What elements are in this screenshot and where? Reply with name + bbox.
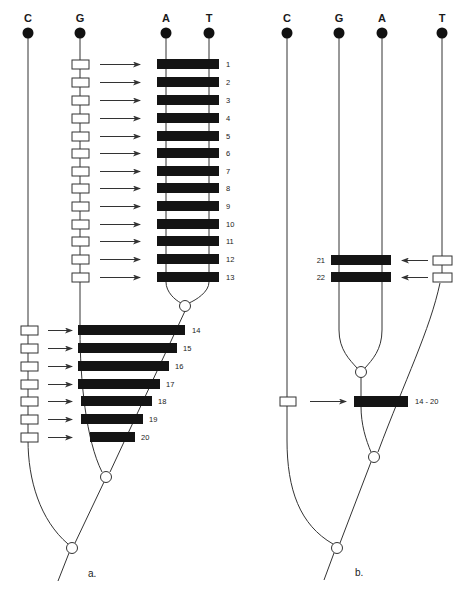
panel-a: C G A T: [21, 12, 234, 581]
panel-label-b: b.: [355, 567, 363, 578]
black-bar: [78, 379, 160, 389]
bar-row: 9: [72, 201, 230, 211]
bar-row: 6: [72, 148, 230, 158]
bar-number: 3: [226, 96, 230, 105]
bar-number: 2: [226, 78, 230, 87]
black-bar: [78, 343, 177, 353]
bar-number: 14 - 20: [415, 397, 438, 406]
bar-number: 13: [226, 273, 234, 282]
bar-number: 17: [166, 380, 174, 389]
black-bar: [331, 272, 391, 282]
event-box-icon: [72, 202, 89, 211]
bar-row: 12: [72, 254, 234, 264]
black-bar: [81, 396, 152, 406]
event-box-icon: [21, 397, 38, 406]
black-bar: [157, 272, 219, 282]
bar-row: 22: [317, 272, 452, 282]
base-label-t: T: [206, 12, 213, 24]
event-box-icon: [72, 220, 89, 229]
event-box-icon: [72, 132, 89, 141]
bar-row: 1: [72, 59, 230, 69]
bar-number: 18: [158, 397, 166, 406]
black-bar: [157, 59, 219, 69]
bar-row: 2: [72, 77, 230, 87]
base-label-g: G: [76, 12, 85, 24]
black-bar: [157, 77, 219, 87]
event-box-icon: [433, 256, 452, 265]
base-label-a: A: [162, 12, 170, 24]
event-box-icon: [21, 380, 38, 389]
event-box-icon: [72, 184, 89, 193]
root-node-icon: [75, 28, 86, 39]
bar-number: 16: [175, 362, 183, 371]
root-node-icon: [334, 28, 345, 39]
bar-row: 5: [72, 131, 230, 141]
bar-number: 4: [226, 114, 230, 123]
root-node-icon: [204, 28, 215, 39]
upper-bars-a: 1 2 3 4: [72, 59, 234, 282]
black-bar: [81, 414, 143, 424]
event-box-icon: [72, 167, 89, 176]
event-box-icon: [72, 255, 89, 264]
root-node-icon: [282, 28, 293, 39]
event-box-icon: [72, 237, 89, 246]
bar-number: 22: [317, 273, 325, 282]
black-bar: [157, 254, 219, 264]
root-dots: [23, 28, 215, 39]
junction-node-icon: [356, 367, 367, 378]
bar-number: 15: [183, 344, 191, 353]
black-bar: [157, 95, 219, 105]
root-dots: [282, 28, 448, 39]
bar-row: 7: [72, 166, 230, 176]
bar-number: 5: [226, 132, 230, 141]
event-box-icon: [72, 114, 89, 123]
black-bar: [331, 255, 391, 265]
bar-row: 8: [72, 183, 230, 193]
base-label-a: A: [378, 12, 386, 24]
bar-row: 4: [72, 113, 230, 123]
event-box-icon: [21, 326, 38, 335]
bar-number: 20: [141, 433, 149, 442]
bar-row: 19: [21, 414, 157, 424]
bar-row: 14: [21, 325, 200, 335]
black-bar: [78, 361, 169, 371]
bar-row: 11: [72, 236, 234, 246]
bar-row: 13: [72, 272, 234, 282]
black-bar: [78, 325, 185, 335]
bar-number: 21: [317, 256, 325, 265]
bar-number: 11: [226, 237, 234, 246]
event-box-icon: [21, 415, 38, 424]
bar-number: 10: [226, 220, 234, 229]
bar-number: 12: [226, 255, 234, 264]
lower-bars-a: 14 15 16 17: [21, 325, 200, 442]
event-box-icon: [72, 96, 89, 105]
black-bar: [354, 396, 408, 407]
bar-number: 6: [226, 149, 230, 158]
panel-b: C G A T 21: [280, 12, 452, 580]
junction-node-icon: [332, 543, 343, 554]
junction-node-icon: [101, 472, 112, 483]
base-label-c: C: [283, 12, 291, 24]
base-label-t: T: [439, 12, 446, 24]
bar-number: 19: [149, 415, 157, 424]
event-box-icon: [72, 60, 89, 69]
bar-row: 3: [72, 95, 230, 105]
black-bar: [157, 219, 219, 229]
black-bar: [157, 183, 219, 193]
black-bar: [157, 148, 219, 158]
bar-number: 1: [226, 60, 230, 69]
event-box-icon: [280, 397, 296, 406]
root-node-icon: [437, 28, 448, 39]
bar-number: 8: [226, 184, 230, 193]
black-bar: [157, 166, 219, 176]
root-node-icon: [23, 28, 34, 39]
bar-row: 18: [21, 396, 166, 406]
lineage-lines: [287, 33, 442, 580]
bar-row: 16: [21, 361, 183, 371]
junction-node-icon: [67, 543, 78, 554]
junction-node-icon: [369, 452, 380, 463]
event-box-icon: [433, 273, 452, 282]
root-node-icon: [377, 28, 388, 39]
root-node-icon: [161, 28, 172, 39]
event-box-icon: [72, 149, 89, 158]
